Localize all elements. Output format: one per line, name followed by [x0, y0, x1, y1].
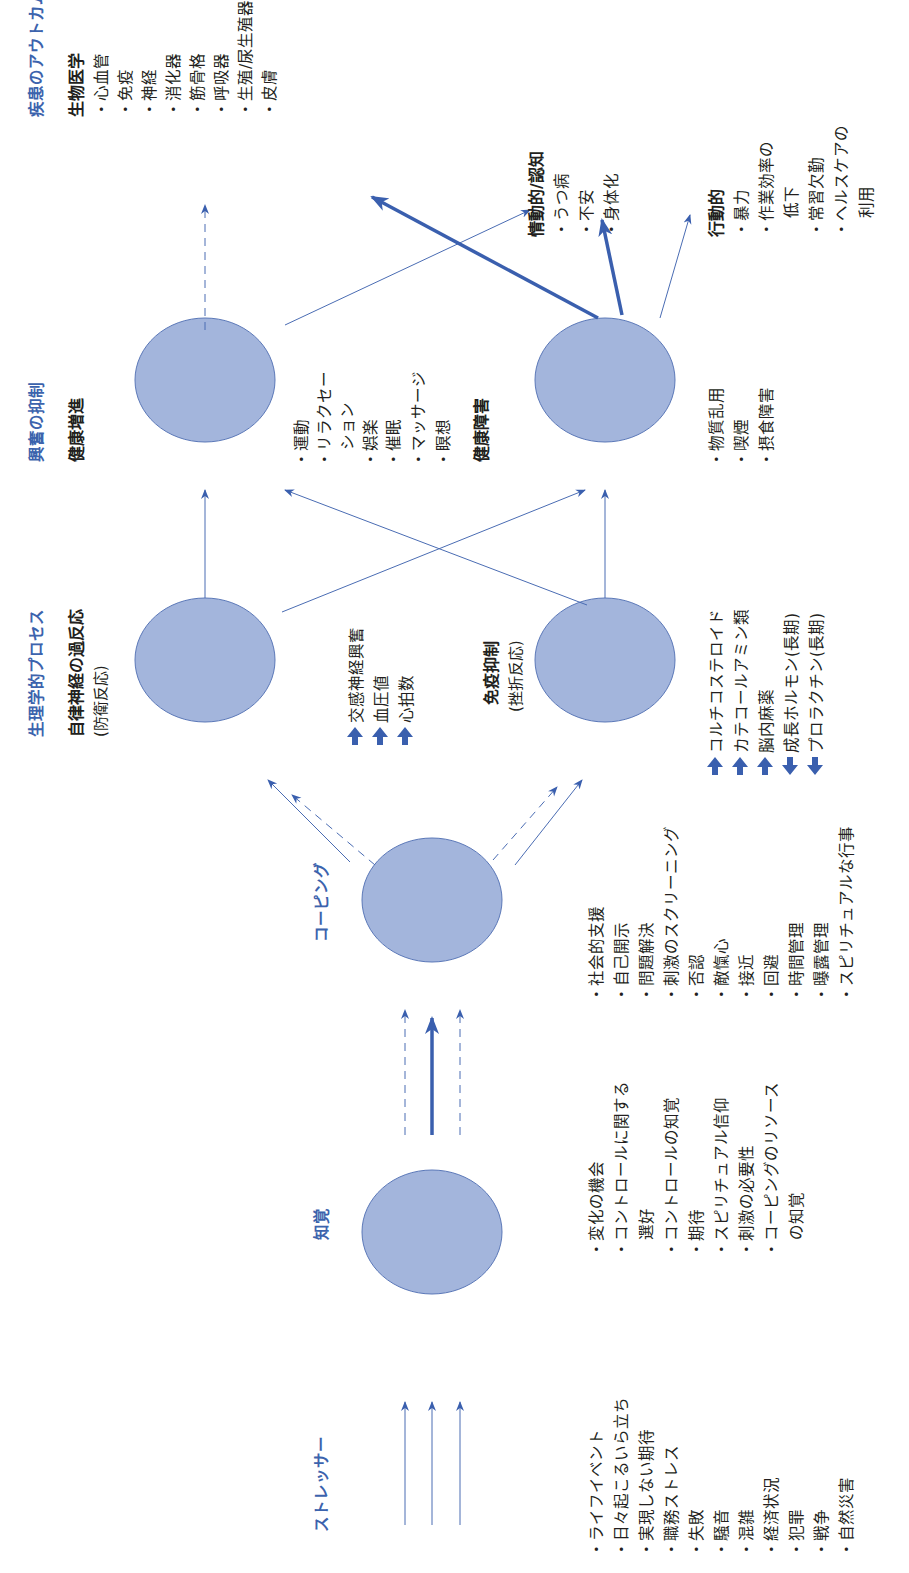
biomedical-list: ・心血管 ・免疫 ・神経 ・消化器 ・筋骨格 ・呼吸器 ・生殖/尿生殖器 ・皮膚: [93, 0, 279, 117]
effect-label: カテコールアミン類: [733, 609, 751, 753]
down-arrow-icon: [782, 757, 798, 775]
list-item: ・社会的支援: [588, 906, 606, 1002]
list-item: ・暴力: [733, 189, 751, 237]
list-item: ・呼吸器: [213, 53, 231, 117]
up-arrow-icon: [372, 727, 388, 745]
down-arrow-icon: [807, 757, 823, 775]
list-item: ・日々起こるいら立ち: [613, 1397, 631, 1557]
list-item: ・運動: [293, 419, 311, 467]
autonomic-title: 自律神経の過反応: [67, 609, 86, 737]
autonomic-subtitle: (防衛反応): [92, 665, 110, 737]
effect-label: 交感神経興奮: [348, 627, 366, 723]
list-item: ・刺激の必要性: [738, 1145, 756, 1257]
perception-list: ・変化の機会 ・コントロールに関する 選好 ・コントロールの知覚 ・期待 ・スピ…: [588, 1081, 806, 1257]
list-item: ・実現しない期待: [638, 1429, 656, 1557]
list-item: ・心血管: [93, 53, 111, 117]
list-item: ・免疫: [117, 69, 135, 117]
list-item: 選好: [638, 1208, 656, 1240]
effect-item: 心拍数: [397, 675, 416, 745]
up-arrow-icon: [732, 757, 748, 775]
list-item: ・常習欠勤: [808, 157, 826, 237]
immune-title: 免疫抑制: [482, 641, 501, 705]
list-item: ・時間管理: [788, 922, 806, 1002]
behavioral-list: ・暴力 ・作業効率の 低下 ・常習欠勤 ・ヘルスケアの 利用: [733, 125, 876, 237]
list-item: 利用: [858, 186, 876, 218]
list-item: ・うつ病: [553, 173, 571, 237]
emotional-title: 情動的/認知: [527, 151, 546, 237]
list-item: ・皮膚: [261, 69, 279, 117]
list-item: ・スピリチュアルな行事: [838, 826, 856, 1002]
list-item: ・失敗: [688, 1509, 706, 1557]
outcomes-section: 疾患のアウトカム 生物医学 ・心血管 ・免疫 ・神経 ・消化器 ・筋骨格 ・呼吸…: [27, 0, 876, 238]
list-item: ・変化の機会: [588, 1161, 606, 1257]
list-item: 低下: [783, 186, 801, 218]
autonomic-effects: 交感神経興奮 血圧値 心拍数: [347, 627, 416, 745]
list-item: ・戦争: [813, 1509, 831, 1557]
list-item: ・リラクセー: [316, 371, 334, 467]
list-item: ・自然災害: [838, 1477, 856, 1557]
list-item: ・期待: [688, 1209, 706, 1257]
list-item: ・自己開示: [613, 922, 631, 1002]
effect-label: 心拍数: [398, 675, 416, 723]
effect-label: 成長ホルモン(長期): [783, 613, 801, 753]
list-item: ・騒音: [713, 1509, 731, 1557]
arousal-suppression-header: 興奮の抑制: [27, 382, 46, 462]
list-item: ・回避: [763, 954, 781, 1002]
effect-label: プロラクチン(長期): [808, 613, 826, 753]
node-autonomic-overreaction: [135, 598, 275, 722]
node-health-promotion: [135, 318, 275, 442]
arrows-perception-to-coping: [405, 1010, 460, 1135]
physiological-header: 生理学的プロセス: [27, 609, 46, 737]
list-item: ・犯罪: [788, 1509, 806, 1557]
list-item: ・コントロールの知覚: [663, 1097, 681, 1257]
health-impairment-list: ・物質乱用 ・喫煙 ・摂食障害: [708, 387, 776, 467]
list-item: ・ヘルスケアの: [833, 125, 851, 237]
up-arrow-icon: [397, 727, 413, 745]
up-arrow-icon: [707, 757, 723, 775]
list-item: ・曝露管理: [813, 922, 831, 1002]
up-arrow-icon: [347, 727, 363, 745]
list-item: ・スピリチュアル信仰: [713, 1097, 731, 1257]
effect-item: コルチコステロイド: [707, 609, 726, 775]
list-item: ・瞑想: [435, 419, 453, 467]
list-item: ・不安: [578, 189, 596, 237]
list-item: ・娯楽: [362, 419, 380, 467]
list-item: ・経済状況: [763, 1477, 781, 1557]
list-item: ・接近: [738, 954, 756, 1002]
list-item: ・神経: [141, 69, 159, 117]
list-item: ・職務ストレス: [663, 1445, 681, 1557]
list-item: ・刺激のスクリーニング: [663, 826, 681, 1002]
immune-subtitle: (挫折反応): [507, 640, 525, 712]
list-item: ・コーピングのリソース: [763, 1082, 781, 1257]
list-item: ・消化器: [165, 53, 183, 117]
list-item: ・催眠: [385, 419, 403, 467]
health-impairment-title: 健康障害: [472, 398, 491, 462]
node-perception: [362, 1170, 502, 1294]
behavioral-title: 行動的: [707, 189, 726, 238]
up-arrow-icon: [757, 757, 773, 775]
effect-item: プロラクチン(長期): [807, 613, 826, 775]
effect-label: コルチコステロイド: [708, 609, 726, 753]
list-item: ・問題解決: [638, 922, 656, 1002]
list-item: ・作業効率の: [758, 141, 776, 237]
effect-item: 交感神経興奮: [347, 627, 366, 745]
list-item: の知覚: [788, 1192, 806, 1240]
stressor-section: ストレッサー ・ライフイベント ・日々起こるいら立ち ・実現しない期待 ・職務ス…: [313, 1397, 856, 1557]
emotional-list: ・うつ病 ・不安 ・身体化: [553, 173, 621, 237]
effect-item: 脳内麻薬: [757, 689, 776, 775]
effect-label: 血圧値: [373, 675, 391, 723]
coping-header: コーピング: [312, 862, 331, 942]
list-item: ・物質乱用: [708, 387, 726, 467]
list-item: ・敵愾心: [713, 938, 731, 1002]
list-item: ・身体化: [603, 173, 621, 237]
node-immune-suppression: [535, 598, 675, 722]
arrows-physiological-to-arousal: [205, 490, 605, 612]
health-promotion-title: 健康増進: [67, 398, 86, 462]
effect-item: 血圧値: [372, 675, 391, 745]
list-item: ・摂食障害: [758, 387, 776, 467]
list-item: ・マッサージ: [410, 371, 428, 467]
list-item: ・喫煙: [733, 419, 751, 467]
effect-label: 脳内麻薬: [758, 689, 776, 753]
immune-effects: コルチコステロイド カテコールアミン類 脳内麻薬 成長ホルモン(長期) プロラク…: [707, 609, 826, 775]
node-coping: [362, 838, 502, 962]
